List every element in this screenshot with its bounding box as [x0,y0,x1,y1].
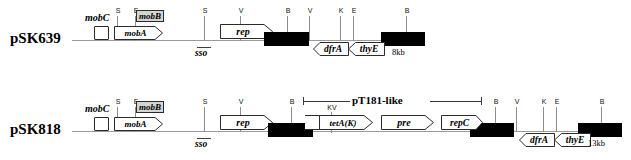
region-bracket-line-right [430,101,482,102]
site-tick-label-b1-r2: B [286,98,298,106]
site-tick-label-v1-r2: V [235,98,247,106]
size-label-psk818: 13kb [588,138,605,148]
gene-label-rep-1: rep [220,24,266,39]
gene-label-mobc-r2: mobC [85,103,109,114]
site-tick-label-k1: K [335,7,347,15]
plasmid-label-psk818: pSK818 [10,121,61,138]
site-tick-s2-r2 [204,107,205,132]
site-tick-e2 [353,16,354,41]
region-bracket-end-right [481,97,482,105]
gene-label-rep-2: rep [220,115,266,130]
backbone-line-psk818 [72,131,618,132]
gene-arrow-repc: repC [441,115,483,130]
gene-box-mobb-r2: mobB [136,101,164,113]
gene-arrow-teta-k: tetA(K) [319,115,373,130]
gene-box-mobc-r2 [94,117,109,131]
gene-arrow-dfra-1: dfrA [313,42,349,56]
gene-label-moba: mobA [114,26,157,40]
site-tick-label-b2-r2: B [490,98,502,106]
site-tick-label-kv: KV [325,104,339,112]
site-tick-label-e2: E [348,7,360,15]
site-tick-v2 [309,16,310,41]
site-tick-label-v1: V [235,7,247,15]
site-tick-label-s1: S [112,7,124,15]
site-tick-label-b2: B [401,7,413,15]
region-label-pt181-like: pT181-like [352,94,403,106]
site-tick-label-s2: S [199,7,211,15]
backbone-line-psk639 [72,40,425,41]
gene-arrow-pre: pre [381,115,434,130]
gene-label-moba-r2: mobA [114,117,157,131]
is-element-box-1a [264,32,309,46]
gene-box-mobc [94,26,109,40]
site-tick-v2-r2 [516,107,517,132]
gene-label-dfra-2: dfrA [523,133,555,147]
plasmid-label-psk639: pSK639 [10,30,61,47]
sso-label-1: sso [195,48,207,58]
gene-box-mobb: mobB [136,10,164,22]
gene-label-repc: repC [441,115,478,130]
gene-arrow-thye-2: thyE [554,133,591,147]
region-bracket-end-left [303,97,304,105]
gene-arrow-moba: mobA [114,26,163,40]
site-tick-s2 [204,16,205,41]
gene-label-thye-2: thyE [559,133,591,147]
gene-label-teta-k: tetA(K) [319,115,367,130]
site-tick-label-e2-r2: E [551,98,563,106]
site-tick-label-b3-r2: B [596,98,608,106]
site-tick-k1-r2 [543,107,544,132]
gene-arrow-rep-2: rep [220,115,273,130]
gene-label-dfra-1: dfrA [317,42,349,56]
site-tick-label-s1-r2: S [112,98,124,106]
site-tick-e2-r2 [556,107,557,132]
gene-label-mobc: mobC [85,12,109,23]
gene-arrow-thye-1: thyE [348,42,385,56]
region-bracket-line-left [303,101,350,102]
gene-label-pre: pre [381,115,427,130]
gene-arrow-dfra-2: dfrA [519,133,555,147]
site-tick-label-k1-r2: K [538,98,550,106]
site-tick-label-v2-r2: V [511,98,523,106]
site-tick-k1 [340,16,341,41]
is-element-box-1b [381,32,425,46]
site-tick-label-v2: V [304,7,316,15]
size-label-psk639: 8kb [392,47,405,57]
site-tick-label-b1: B [282,7,294,15]
gene-label-thye-1: thyE [353,42,385,56]
plasmid-map-figure: pSK639 S E S V B V K E B mobC mobB [0,0,631,160]
gene-arrow-moba-r2: mobA [114,117,163,131]
site-tick-label-s2-r2: S [199,98,211,106]
sso-label-2: sso [195,139,207,149]
